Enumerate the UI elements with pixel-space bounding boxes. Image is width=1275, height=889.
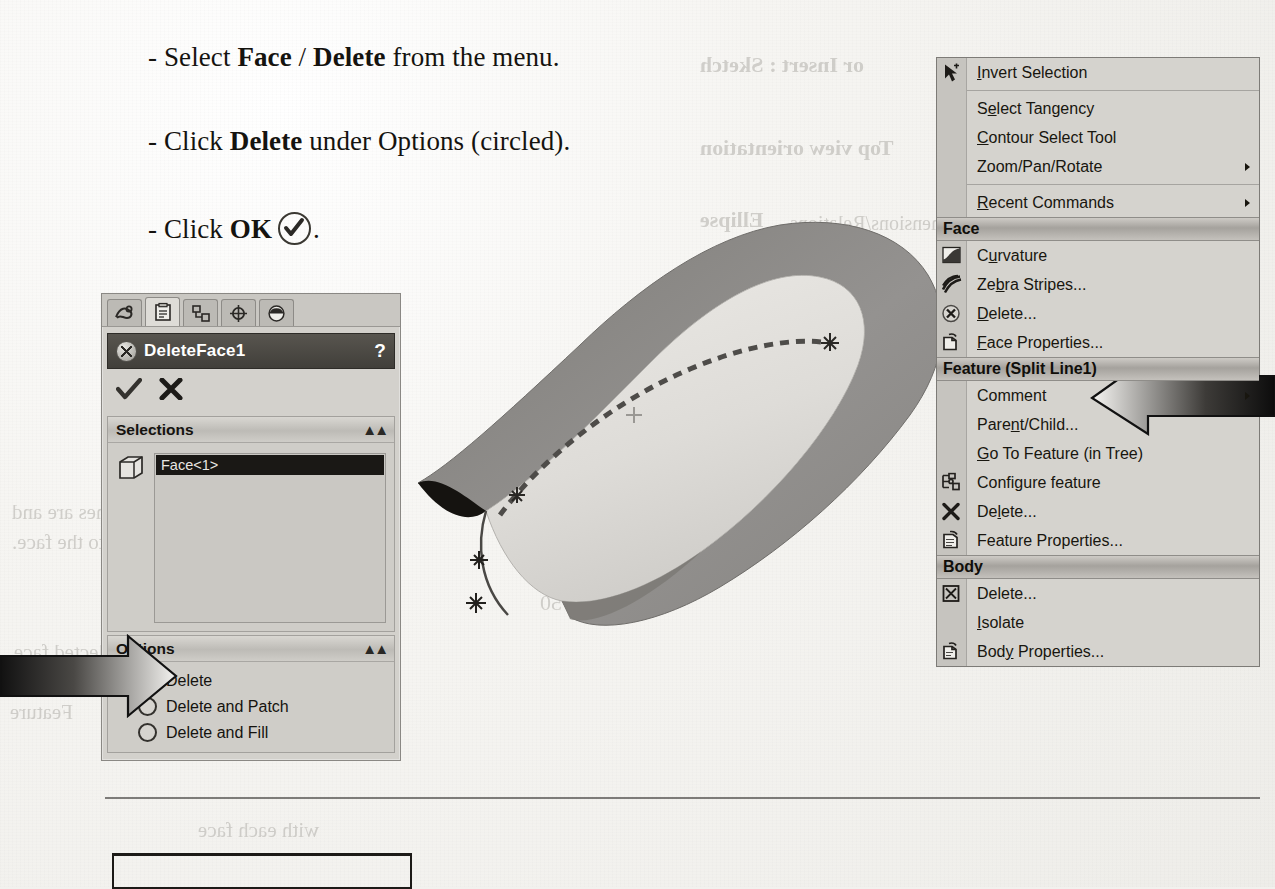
instruction-1-prefix: - Select [148,42,237,72]
delete-face-icon [116,341,137,362]
cursor-arrow-icon [941,62,962,83]
curvature-icon [941,245,962,266]
property-manager-tab-strip [102,294,400,327]
ok-checkmark-icon [278,212,311,245]
feature-properties-icon [941,530,962,551]
radio-option-delete-and-fill[interactable]: Delete and Fill [138,723,394,742]
menu-group-header: Feature (Split Line1) [937,357,1259,381]
menu-item-label: Recent Commands [977,194,1114,212]
submenu-arrow-icon [1245,199,1250,207]
accept-checkmark-button[interactable] [116,378,142,404]
panel-title-text: DeleteFace1 [144,341,245,361]
instruction-1-mid: / [292,42,313,72]
menu-item-label: Isolate [977,614,1024,632]
menu-item-label: Select Tangency [977,100,1094,118]
menu-group-header: Face [937,217,1259,241]
face-selection-icon [116,453,146,483]
selections-section: Selections ▲▲ Face<1> [107,416,395,632]
menu-item-configure-feature[interactable]: Configure feature [937,468,1259,497]
menu-item-label: Contour Select Tool [977,129,1116,147]
help-button[interactable]: ? [374,340,386,362]
selections-body: Face<1> [108,443,394,631]
menu-item-delete[interactable]: Delete... [937,497,1259,526]
menu-item-zebra-stripes[interactable]: Zebra Stripes... [937,270,1259,299]
face-properties-icon [941,332,962,353]
menu-item-delete[interactable]: Delete... [937,299,1259,328]
delete-face-icon [941,303,962,324]
menu-item-label: Feature Properties... [977,532,1123,550]
options-collapse-icon[interactable]: ▲▲ [362,640,386,657]
menu-item-label: Zoom/Pan/Rotate [977,158,1102,176]
menu-group-label: Face [943,220,979,238]
instruction-1-suffix: from the menu. [386,42,560,72]
instruction-line-3: - Click OK. [148,205,320,245]
menu-item-feature-properties[interactable]: Feature Properties... [937,526,1259,555]
menu-item-face-properties[interactable]: Face Properties... [937,328,1259,357]
menu-group-label: Body [943,558,983,576]
submenu-arrow-icon [1245,163,1250,171]
menu-item-zoom-pan-rotate[interactable]: Zoom/Pan/Rotate [937,152,1259,181]
menu-item-recent-commands[interactable]: Recent Commands [937,188,1259,217]
instruction-2-prefix: - Click [148,126,230,156]
panel-title-bar: DeleteFace1 ? [107,333,395,369]
menu-item-curvature[interactable]: Curvature [937,241,1259,270]
instruction-2-suffix: under Options (circled). [302,126,570,156]
menu-item-parent-child[interactable]: Parent/Child... [937,410,1259,439]
instruction-3-prefix: - Click [148,214,230,244]
selections-collapse-icon[interactable]: ▲▲ [362,421,386,438]
menu-item-delete[interactable]: Delete... [937,579,1259,608]
menu-item-comment[interactable]: Comment [937,381,1259,410]
menu-group-header: Body [937,555,1259,579]
options-header-label: Options [116,640,175,658]
display-manager-tab[interactable] [259,299,294,326]
configure-feature-icon [941,472,962,493]
menu-item-label: Configure feature [977,474,1101,492]
delete-body-icon [941,583,962,604]
menu-item-go-to-feature-in-tree[interactable]: Go To Feature (in Tree) [937,439,1259,468]
property-manager-tab[interactable] [145,297,180,326]
selection-listbox[interactable]: Face<1> [154,453,386,623]
selections-header[interactable]: Selections ▲▲ [108,417,394,443]
radio-delete-indicator[interactable] [138,671,157,690]
radio-delete-and-patch-label: Delete and Patch [166,698,289,716]
panel-action-row [102,369,400,413]
feature-manager-tab[interactable] [107,299,142,326]
delete-face-property-panel: DeleteFace1 ? Selections ▲▲ Face<1> Opti… [101,293,401,761]
radio-delete-and-patch-indicator[interactable] [138,697,157,716]
menu-item-select-tangency[interactable]: Select Tangency [937,94,1259,123]
dimxpert-manager-tab[interactable] [221,299,256,326]
configuration-manager-tab[interactable] [183,299,218,326]
menu-item-body-properties[interactable]: Body Properties... [937,637,1259,666]
instruction-1-bold-delete: Delete [313,42,386,72]
radio-option-delete[interactable]: Delete [138,671,394,690]
instruction-3-bold-ok: OK [230,214,272,244]
instruction-3-period: . [313,214,320,244]
menu-item-label: Body Properties... [977,643,1104,661]
body-properties-icon [941,641,962,662]
menu-item-label: Face Properties... [977,334,1103,352]
menu-item-label: Go To Feature (in Tree) [977,445,1143,463]
face-context-menu[interactable]: Invert SelectionSelect TangencyContour S… [936,57,1260,667]
instruction-2-bold-delete: Delete [230,126,303,156]
radio-delete-and-fill-indicator[interactable] [138,723,157,742]
menu-item-isolate[interactable]: Isolate [937,608,1259,637]
instruction-line-2: - Click Delete under Options (circled). [148,126,570,157]
submenu-arrow-icon [1245,392,1250,400]
instruction-1-bold-face: Face [237,42,291,72]
menu-item-label: Curvature [977,247,1047,265]
menu-item-label: Delete... [977,585,1037,603]
cancel-x-button[interactable] [159,378,183,404]
menu-item-contour-select-tool[interactable]: Contour Select Tool [937,123,1259,152]
menu-item-label: Comment [977,387,1046,405]
options-header[interactable]: Options ▲▲ [108,636,394,662]
zebra-stripes-icon [941,274,962,295]
list-item[interactable]: Face<1> [156,455,384,475]
bottom-left-box [112,853,412,889]
menu-item-label: Delete... [977,305,1037,323]
instruction-line-1: - Select Face / Delete from the menu. [148,42,560,73]
menu-item-invert-selection[interactable]: Invert Selection [937,58,1259,87]
radio-delete-label: Delete [166,672,212,690]
options-section: Options ▲▲ Delete Delete and Patch Delet… [107,635,395,753]
radio-option-delete-and-patch[interactable]: Delete and Patch [138,697,394,716]
menu-item-label: Delete... [977,503,1037,521]
